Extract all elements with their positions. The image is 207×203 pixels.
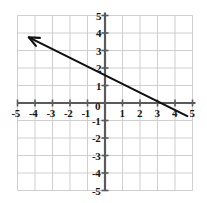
x-axis-tick-label: -1 <box>82 108 91 119</box>
origin-label: 0 <box>95 101 100 112</box>
y-axis-tick-label: -2 <box>92 133 101 144</box>
y-axis-tick-label: -5 <box>92 186 101 197</box>
x-axis-tick-label: 5 <box>190 108 195 119</box>
x-axis-tick-label: -5 <box>12 108 21 119</box>
y-axis-tick-label: 3 <box>96 46 101 57</box>
coordinate-plane-figure: -5-4-3-2-112345 54321-1-2-3-4-5 0 <box>0 0 207 203</box>
y-axis-tick-label: 4 <box>96 28 101 39</box>
x-axis-tick-label: 1 <box>120 108 125 119</box>
axes <box>18 13 196 191</box>
y-axis-tick-label: -4 <box>92 168 101 179</box>
graph-canvas <box>0 0 207 203</box>
x-axis-tick-label: 3 <box>155 108 160 119</box>
y-axis-tick-label: 5 <box>96 11 101 22</box>
y-axis-tick-label: -3 <box>92 151 101 162</box>
x-axis-tick-label: 2 <box>137 108 142 119</box>
x-axis-tick-label: -4 <box>29 108 38 119</box>
x-axis-tick-label: 4 <box>172 108 177 119</box>
y-axis-tick-label: 2 <box>96 63 101 74</box>
y-axis-tick-label: -1 <box>92 116 101 127</box>
y-axis-tick-label: 1 <box>96 81 101 92</box>
x-axis-tick-label: -2 <box>64 108 73 119</box>
x-axis-tick-label: -3 <box>47 108 56 119</box>
